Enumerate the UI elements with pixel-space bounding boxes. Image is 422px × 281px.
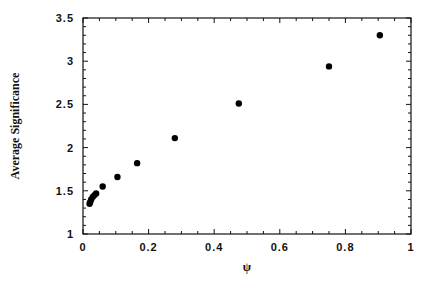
x-tick-label: 0.8 (336, 241, 354, 253)
x-axis-title: ψ (243, 260, 252, 274)
data-points (86, 32, 383, 207)
data-point (93, 190, 99, 196)
plot-frame (83, 18, 411, 234)
x-tick-label: 1 (407, 241, 414, 253)
x-tick-label: 0.4 (205, 241, 223, 253)
y-tick-label: 3 (67, 55, 74, 67)
data-point (114, 174, 120, 180)
data-point (134, 160, 140, 166)
x-tick-label: 0.2 (139, 241, 157, 253)
scatter-chart: 00.20.40.60.81 11.522.533.5 ψ Average Si… (0, 0, 422, 281)
x-tick-label: 0 (79, 241, 86, 253)
y-tick-label: 1 (67, 228, 74, 240)
y-tick-label: 1.5 (56, 185, 74, 197)
data-point (377, 32, 383, 38)
data-point (172, 135, 178, 141)
x-tick-label: 0.6 (271, 241, 289, 253)
y-axis-title: Average Significance (8, 72, 22, 179)
y-tick-label: 2.5 (56, 98, 74, 110)
data-point (99, 183, 105, 189)
data-point (236, 100, 242, 106)
y-tick-labels: 11.522.533.5 (56, 12, 74, 240)
y-tick-label: 2 (67, 142, 74, 154)
data-point (326, 63, 332, 69)
axis-ticks (83, 18, 411, 234)
y-tick-label: 3.5 (56, 12, 74, 24)
x-tick-labels: 00.20.40.60.81 (79, 241, 414, 253)
